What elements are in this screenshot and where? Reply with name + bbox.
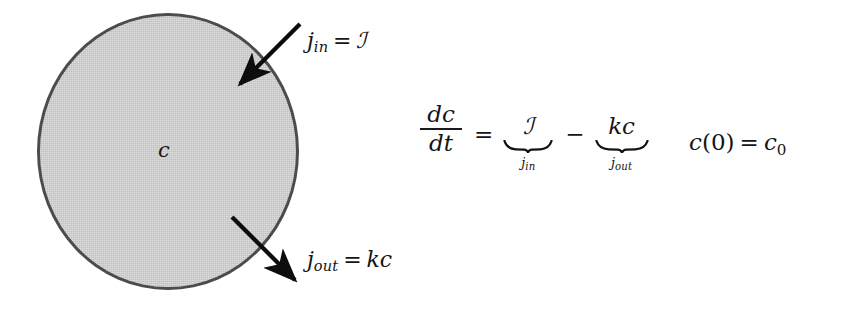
inflow-brace-label: jin xyxy=(521,156,535,172)
derivative-numerator: dc xyxy=(424,103,458,128)
initial-condition-function: c xyxy=(689,129,702,155)
inflow-term-group: ℐ jin xyxy=(503,115,553,172)
initial-condition-argument: 0 xyxy=(711,129,726,155)
outflow-flux-label: jout=kc xyxy=(307,249,392,274)
initial-condition-value-symbol: c xyxy=(764,129,777,155)
outflow-brace-subscript: out xyxy=(615,161,632,172)
initial-condition: c(0)=c0 xyxy=(689,131,786,158)
outflow-symbol: j xyxy=(307,247,314,272)
inflow-subscript: in xyxy=(314,39,328,55)
inflow-brace-subscript: in xyxy=(525,161,535,172)
initial-condition-open-paren: ( xyxy=(702,129,711,155)
initial-condition-close-paren: ) xyxy=(726,129,735,155)
outflow-brace-label: jout xyxy=(611,156,632,172)
initial-condition-value-subscript: 0 xyxy=(777,141,787,159)
outflow-underbrace xyxy=(595,140,649,153)
equation-equals-sign: = xyxy=(474,123,493,146)
equation-minus-sign: − xyxy=(565,123,584,146)
inflow-underbrace xyxy=(503,140,553,153)
outflow-term-group: kc jout xyxy=(595,115,649,172)
derivative-fraction: dc dt xyxy=(420,103,462,155)
derivative-denominator: dt xyxy=(426,130,456,155)
inflow-relation: = xyxy=(333,28,351,53)
inflow-term-expression: ℐ xyxy=(517,115,540,139)
inflow-symbol: j xyxy=(307,28,314,53)
governing-equation: dc dt = ℐ jin − kc j xyxy=(420,103,649,172)
compartment-model-figure: c jin=ℐ jout=kc dc dt = xyxy=(0,0,843,311)
compartment-concentration-label: c xyxy=(158,138,170,162)
outflow-value: kc xyxy=(366,247,392,272)
inflow-value: ℐ xyxy=(356,28,366,53)
outflow-term-expression: kc xyxy=(602,115,641,139)
outflow-subscript: out xyxy=(314,258,339,274)
outflow-relation: = xyxy=(343,247,361,272)
initial-condition-equals: = xyxy=(740,129,759,155)
inflow-flux-label: jin=ℐ xyxy=(307,30,366,55)
